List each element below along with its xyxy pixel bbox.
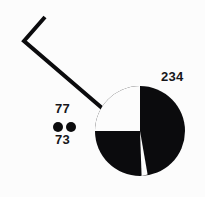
leader-line [24,17,102,108]
diagram-canvas: 234 77 73 [0,0,205,197]
dot-left [53,122,63,132]
dot-value-label-73: 73 [55,133,70,146]
pie-value-label-234: 234 [161,70,184,83]
dot-pair [53,122,76,132]
dot-value-label-77: 77 [55,102,70,115]
pie-slice-white-quadrant [95,86,140,131]
pie-chart [95,86,185,176]
diagram-svg [0,0,205,197]
dot-right [66,122,76,132]
